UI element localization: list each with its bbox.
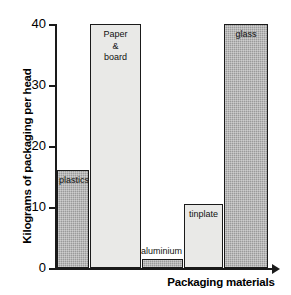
bar-label-paper-line3: board (91, 52, 140, 62)
y-tick-mark-30 (49, 85, 56, 87)
bar-paper-and-board[interactable]: Paper & board (90, 24, 141, 268)
x-axis-arrow-icon (272, 264, 280, 274)
bar-label-paper-line1: Paper (91, 29, 140, 39)
bar-label-glass: glass (225, 29, 267, 39)
y-tick-label-0: 0 (6, 261, 46, 274)
bar-plastics[interactable]: plastics (57, 170, 89, 268)
y-tick-mark-40 (49, 24, 56, 26)
bar-label-tinplate: tinplate (185, 209, 222, 219)
y-tick-label-20: 20 (6, 139, 46, 152)
bar-tinplate[interactable]: tinplate (184, 204, 223, 268)
y-tick-mark-0 (49, 268, 56, 270)
x-axis-title: Packaging materials (151, 276, 291, 288)
bar-chart: Kilograms of packaging per head 40 30 20… (0, 0, 291, 295)
bar-label-plastics: plastics (58, 175, 88, 185)
bar-label-aluminium: aluminium (141, 247, 182, 257)
y-tick-label-10: 10 (6, 200, 46, 213)
y-tick-mark-20 (49, 146, 56, 148)
bar-label-paper-line2: & (91, 41, 140, 51)
y-tick-label-40: 40 (6, 17, 46, 30)
y-tick-mark-10 (49, 207, 56, 209)
y-axis-title: Kilograms of packaging per head (21, 31, 33, 281)
y-tick-label-30: 30 (6, 78, 46, 91)
bar-glass[interactable]: glass (224, 24, 268, 268)
bar-aluminium[interactable] (142, 259, 183, 268)
x-axis-line (55, 268, 275, 270)
